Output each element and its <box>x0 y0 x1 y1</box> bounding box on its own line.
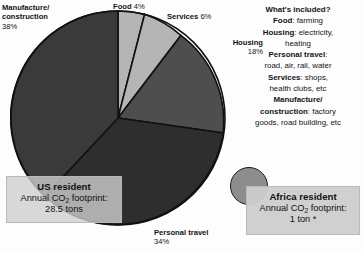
whats-included-row-value: : electricity, <box>294 28 333 37</box>
pie-label-personal-travel-percent: 34% <box>154 237 169 246</box>
whats-included-title: What's included? <box>236 4 360 15</box>
whats-included-row-value: : factory <box>308 107 336 116</box>
callout-us-line1-post: footprint: <box>69 193 107 203</box>
callout-africa-line1: Annual CO2 footprint: <box>252 203 354 215</box>
whats-included-row: Services: shops, <box>236 72 360 83</box>
whats-included-row: Food: farming <box>236 15 360 26</box>
whats-included-row-value: goods, road building, etc <box>255 118 341 127</box>
pie-label-food-percent: 4% <box>134 2 145 11</box>
whats-included-row: health clubs, etc <box>236 83 360 94</box>
callout-africa-line1-pre: Annual CO <box>260 203 305 213</box>
whats-included-row-value: heating <box>285 39 311 48</box>
pie-label-manufacture-percent: 38% <box>2 22 17 31</box>
whats-included-row: goods, road building, etc <box>236 117 360 128</box>
callout-us-line1: Annual CO2 footprint: <box>12 193 116 205</box>
pie-label-services-name: Services <box>167 12 198 21</box>
whats-included-row-key: Food <box>273 16 292 25</box>
whats-included-row-key: Housing <box>263 28 295 37</box>
callout-africa-heading: Africa resident <box>252 191 354 203</box>
whats-included-row-value: health clubs, etc <box>269 84 326 93</box>
callout-africa-resident: Africa resident Annual CO2 footprint: 1 … <box>246 186 360 235</box>
whats-included-row: Manufacture/ <box>236 94 360 105</box>
pie-label-services-percent: 6% <box>200 12 211 21</box>
whats-included-row-key: Services <box>268 73 300 82</box>
whats-included-row: construction: factory <box>236 106 360 117</box>
callout-us-line2: 28.5 tons <box>12 204 116 216</box>
whats-included-row: road, air, rail, water <box>236 60 360 71</box>
pie-label-manufacture-line1: Manufacture/ <box>2 3 49 12</box>
pie-label-personal-travel: Personal travel 34% <box>154 228 246 247</box>
whats-included-row-value: : shops, <box>300 73 328 82</box>
whats-included-block: What's included? Food: farmingHousing: e… <box>236 4 360 128</box>
callout-us-line1-pre: Annual CO <box>21 193 66 203</box>
callout-africa-line1-post: footprint: <box>308 203 346 213</box>
whats-included-row: Personal travel: <box>236 49 360 60</box>
callout-us-resident: US resident Annual CO2 footprint: 28.5 t… <box>6 176 122 223</box>
pie-label-personal-travel-name: Personal travel <box>154 228 208 237</box>
whats-included-rows: Food: farmingHousing: electricity,heatin… <box>236 15 360 128</box>
whats-included-row-key: Manufacture/ <box>273 95 322 104</box>
whats-included-row-value: : farming <box>292 16 323 25</box>
pie-label-manufacture-line2: construction <box>2 12 48 21</box>
pie-label-food: Food 4% <box>113 2 145 11</box>
whats-included-row-value: : <box>325 50 327 59</box>
callout-africa-line2: 1 ton * <box>252 214 354 226</box>
whats-included-row: heating <box>236 38 360 49</box>
pie-label-services: Services 6% <box>167 12 211 21</box>
whats-included-row-key: construction <box>260 107 308 116</box>
pie-label-manufacture-construction: Manufacture/ construction 38% <box>2 3 76 31</box>
whats-included-row: Housing: electricity, <box>236 27 360 38</box>
pie-label-food-name: Food <box>113 2 132 11</box>
whats-included-row-key: Personal travel <box>269 50 326 59</box>
callout-africa-line1-sub: 2 <box>304 207 308 214</box>
callout-us-line1-sub: 2 <box>65 197 69 204</box>
co2-footprint-infographic: Manufacture/ construction 38% Food 4% Se… <box>0 0 363 253</box>
callout-us-heading: US resident <box>12 181 116 193</box>
whats-included-row-value: road, air, rail, water <box>264 61 331 70</box>
